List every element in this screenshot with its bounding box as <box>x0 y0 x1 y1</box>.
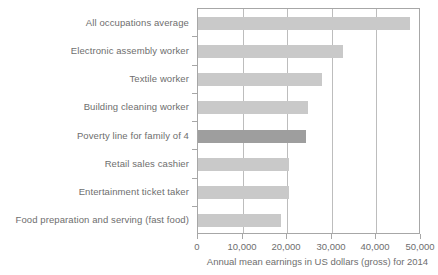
bar <box>198 101 308 114</box>
gridline <box>287 9 288 233</box>
bar <box>198 186 289 199</box>
gridline <box>243 9 244 233</box>
x-axis-title: Annual mean earnings in US dollars (gros… <box>197 256 438 267</box>
gridline <box>376 9 377 233</box>
category-axis-labels: All occupations averageElectronic assemb… <box>0 8 189 234</box>
category-label: Poverty line for family of 4 <box>0 130 189 141</box>
bar <box>198 158 289 171</box>
y-axis-tick <box>192 65 197 66</box>
x-axis-tick <box>286 234 287 239</box>
bar <box>198 45 343 58</box>
y-axis-tick <box>192 93 197 94</box>
x-axis-tick-label: 30,000 <box>316 241 345 252</box>
bar <box>198 17 410 30</box>
bar <box>198 130 306 143</box>
bar-chart: All occupations averageElectronic assemb… <box>0 0 438 275</box>
x-axis-tick-label: 50,000 <box>405 241 434 252</box>
category-label: Textile worker <box>0 73 189 84</box>
x-axis-tick-label: 10,000 <box>227 241 256 252</box>
category-label: Electronic assembly worker <box>0 45 189 56</box>
y-axis-tick <box>192 178 197 179</box>
y-axis-tick <box>192 36 197 37</box>
x-axis-tick <box>242 234 243 239</box>
bar <box>198 73 322 86</box>
y-axis-tick <box>192 206 197 207</box>
bar <box>198 214 281 227</box>
x-axis-tick-label: 0 <box>194 241 199 252</box>
category-label: Building cleaning worker <box>0 101 189 112</box>
category-label: All occupations average <box>0 17 189 28</box>
y-axis-tick <box>192 121 197 122</box>
x-axis-tick <box>331 234 332 239</box>
plot-area <box>197 8 420 234</box>
category-label: Food preparation and serving (fast food) <box>0 214 189 225</box>
x-axis-tick <box>420 234 421 239</box>
x-axis-tick <box>375 234 376 239</box>
gridline <box>332 9 333 233</box>
category-label: Retail sales cashier <box>0 158 189 169</box>
x-axis-tick-label: 40,000 <box>360 241 389 252</box>
category-label: Entertainment ticket taker <box>0 186 189 197</box>
x-axis-tick <box>197 234 198 239</box>
x-axis-tick-label: 20,000 <box>271 241 300 252</box>
y-axis-tick <box>192 149 197 150</box>
